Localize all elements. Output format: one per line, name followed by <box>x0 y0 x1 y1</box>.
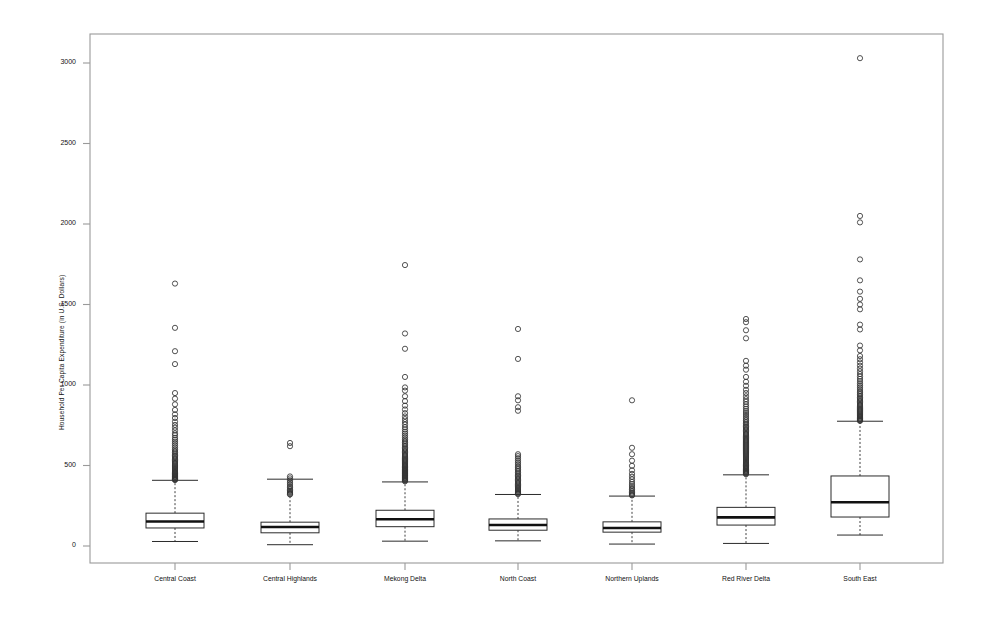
boxplot-canvas <box>0 0 997 618</box>
y-tick-label: 0 <box>38 541 76 548</box>
y-tick-label: 2000 <box>38 219 76 226</box>
outlier-point <box>172 361 177 366</box>
y-tick-label: 2500 <box>38 139 76 146</box>
box-plot-group <box>146 281 204 542</box>
x-category-label: South East <box>800 575 920 582</box>
outlier-point <box>629 398 634 403</box>
outlier-point <box>857 213 862 218</box>
outlier-point <box>857 220 862 225</box>
outlier-point <box>857 296 862 301</box>
box-plot-group <box>717 316 775 543</box>
box-iqr <box>831 476 889 517</box>
outlier-point <box>172 349 177 354</box>
outlier-point <box>402 346 407 351</box>
outlier-point <box>402 331 407 336</box>
outlier-point <box>629 452 634 457</box>
x-category-label: North Coast <box>458 575 578 582</box>
x-category-label: Northern Uplands <box>572 575 692 582</box>
outlier-point <box>629 445 634 450</box>
outlier-point <box>172 402 177 407</box>
outlier-point <box>743 320 748 325</box>
outlier-point <box>172 325 177 330</box>
outlier-point <box>172 281 177 286</box>
box-plot-group <box>376 262 434 541</box>
box-plot-group <box>489 326 547 540</box>
outlier-point <box>857 289 862 294</box>
outlier-point <box>515 356 520 361</box>
y-tick-label: 1500 <box>38 300 76 307</box>
y-tick-label: 500 <box>38 461 76 468</box>
x-category-label: Central Coast <box>115 575 235 582</box>
x-category-label: Central Highlands <box>230 575 350 582</box>
outlier-point <box>743 336 748 341</box>
boxplot-figure: Household Per Capita Expenditure (in U.S… <box>0 0 997 618</box>
outlier-point <box>857 257 862 262</box>
outlier-point <box>515 326 520 331</box>
box-plot-group <box>603 398 661 544</box>
y-tick-label: 1000 <box>38 380 76 387</box>
outlier-point <box>629 458 634 463</box>
outlier-point <box>287 444 292 449</box>
x-category-label: Mekong Delta <box>345 575 465 582</box>
outlier-point <box>402 374 407 379</box>
outlier-point <box>515 408 520 413</box>
outlier-point <box>857 56 862 61</box>
box-plot-group <box>261 440 319 544</box>
y-tick-label: 3000 <box>38 58 76 65</box>
box-plot-group <box>831 56 889 535</box>
outlier-point <box>402 388 407 393</box>
outlier-point <box>857 278 862 283</box>
outlier-point <box>402 262 407 267</box>
outlier-point <box>172 390 177 395</box>
outlier-point <box>172 396 177 401</box>
outlier-point <box>743 328 748 333</box>
x-category-label: Red River Delta <box>686 575 806 582</box>
